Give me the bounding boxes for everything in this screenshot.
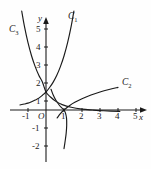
- curve-label-c1: C1: [68, 12, 78, 23]
- curve-label-c3-sub: 3: [15, 29, 18, 36]
- origin-label: O: [38, 112, 45, 121]
- curve-c1: [20, 11, 74, 105]
- curve-c2: [57, 87, 118, 118]
- x-tick-label-3: 3: [97, 112, 102, 121]
- curve-label-c1-sub: 1: [74, 16, 77, 23]
- axes-group: [10, 17, 147, 162]
- y-tick-label-4: 4: [36, 43, 41, 52]
- x-tick-label-4: 4: [115, 112, 120, 121]
- curve-label-c2: C2: [122, 78, 132, 89]
- y-tick-label-3: 3: [36, 61, 41, 70]
- y-axis-arrowhead: [43, 17, 49, 24]
- y-tick-label-1: 1: [36, 97, 41, 106]
- x-tick-label-5: 5: [133, 112, 138, 121]
- curve-label-c2-sub: 2: [128, 82, 131, 89]
- y-tick-label-minus1: -1: [32, 124, 40, 133]
- y-axis-label: y: [38, 14, 42, 23]
- curve-label-c3: C3: [9, 25, 19, 36]
- x-tick-label-2: 2: [79, 112, 84, 121]
- x-tick-label-minus1: -1: [22, 112, 30, 121]
- x-tick-label-1: 1: [61, 112, 66, 121]
- graph-figure: y x O -1 1 2 3 4 5 5 4 3 2 1 -1 -2 C1 C2…: [0, 0, 151, 169]
- x-axis-label: x: [139, 113, 143, 122]
- y-tick-label-2: 2: [36, 79, 41, 88]
- y-tick-label-5: 5: [36, 25, 41, 34]
- y-tick-label-minus2: -2: [32, 142, 40, 151]
